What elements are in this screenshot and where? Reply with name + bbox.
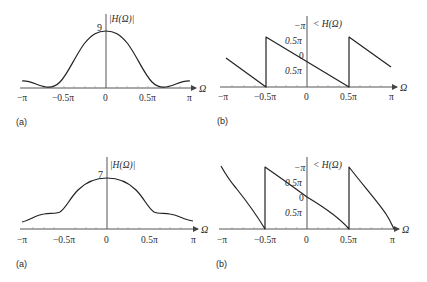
x-tick-label: π (389, 92, 394, 102)
x-tick-label: 0 (304, 92, 309, 102)
panel-label: (b) (217, 116, 228, 126)
y-axis-label: < H(Ω) (313, 160, 342, 171)
x-axis-label: Ω (201, 224, 208, 235)
y-axis-label: < H(Ω) (313, 19, 342, 30)
y-tick-label: 0 (299, 193, 304, 203)
x-tick-label: π (191, 235, 196, 245)
x-tick-label: −π (217, 235, 227, 245)
x-tick-label: π (390, 235, 395, 245)
peak-label: 7 (98, 169, 103, 180)
figure: 9 |H(Ω)| Ω −π −0.5π 0 0.5π π (a) −π 0.5π (0, 0, 427, 282)
x-tick-label: 0 (304, 235, 309, 245)
panel-label: (a) (16, 117, 27, 127)
x-tick-label: π (187, 93, 192, 103)
x-tick-label: −0.5π (52, 93, 74, 103)
panel-label: (b) (216, 259, 227, 269)
y-tick-label: 0.5π (285, 178, 302, 188)
x-tick-label: 0.5π (139, 93, 156, 103)
x-tick-label: 0.5π (340, 92, 357, 102)
y-tick-label: 0.5π (285, 208, 302, 218)
x-tick-label: −0.5π (53, 235, 75, 245)
x-tick-label: 0 (103, 93, 108, 103)
x-tick-label: −π (17, 235, 27, 245)
chart-top-phase: −π 0.5π 0 0.5π < H(Ω) Ω −π −0.5π 0 0.5π … (217, 16, 407, 126)
chart-bottom-magnitude: 7 |H(Ω)| Ω −π −0.5π 0 0.5π π (a) (16, 157, 208, 269)
x-tick-label: −0.5π (254, 92, 276, 102)
x-tick-label: −π (17, 93, 27, 103)
chart-bottom-phase: −π 0.5π 0 0.5π < H(Ω) Ω −π −0.5π 0 0.5π … (216, 157, 409, 269)
x-tick-label: −0.5π (254, 235, 276, 245)
panel-label: (a) (16, 259, 27, 269)
y-tick-label: −π (294, 21, 305, 31)
y-axis-label: |H(Ω)| (109, 14, 134, 25)
x-axis-label: Ω (199, 83, 206, 94)
x-axis-label: Ω (400, 82, 407, 93)
peak-label: 9 (97, 22, 102, 33)
y-tick-label: −π (294, 163, 305, 173)
x-tick-label: 0.5π (340, 235, 357, 245)
y-axis-label: |H(Ω)| (110, 160, 135, 171)
x-tick-label: 0 (104, 235, 109, 245)
y-tick-label: 0.5π (285, 36, 302, 46)
phase-curve (226, 37, 391, 87)
x-tick-label: 0.5π (141, 235, 158, 245)
x-tick-label: −π (218, 92, 228, 102)
chart-top-magnitude: 9 |H(Ω)| Ω −π −0.5π 0 0.5π π (a) (16, 14, 206, 127)
x-axis-label: Ω (402, 224, 409, 235)
y-tick-label: 0 (299, 51, 304, 61)
y-tick-label: 0.5π (285, 66, 302, 76)
